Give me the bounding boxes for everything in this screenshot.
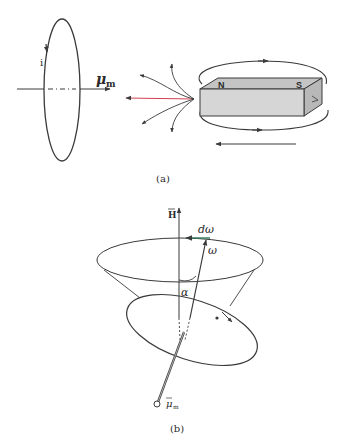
central-field-line xyxy=(126,98,194,99)
omega-label: ω xyxy=(208,244,217,257)
spinning-disc xyxy=(118,280,266,379)
field-lines xyxy=(126,64,194,132)
current-label: i xyxy=(40,57,43,68)
svg-text:μ: μ xyxy=(166,398,173,409)
cone-side-right xyxy=(230,270,254,306)
caption-a: (a) xyxy=(156,173,170,184)
precession-cone-top xyxy=(97,238,263,282)
svg-text:μ: μ xyxy=(96,71,106,87)
spin-arrow xyxy=(222,312,232,322)
field-label: H xyxy=(168,209,177,220)
caption-b: (b) xyxy=(170,423,184,434)
panel-a: i μ m xyxy=(17,19,328,184)
current-loop: i xyxy=(40,19,80,161)
alpha-arc xyxy=(179,276,196,281)
cone-side-left xyxy=(104,270,140,298)
south-label: S xyxy=(296,80,302,90)
north-label: N xyxy=(218,80,225,90)
svg-text:H: H xyxy=(168,210,177,220)
dw-label: dω xyxy=(198,223,214,236)
svg-text:m: m xyxy=(173,403,179,410)
moment-label-b: μ m xyxy=(166,398,179,410)
panel-b: H dω ω α μ m (b) xyxy=(97,208,266,434)
bar-magnet: N S xyxy=(200,78,322,116)
magnetic-moment-figure: i μ m xyxy=(0,0,345,446)
svg-text:m: m xyxy=(106,79,116,89)
moment-label-a: μ m xyxy=(96,71,116,89)
